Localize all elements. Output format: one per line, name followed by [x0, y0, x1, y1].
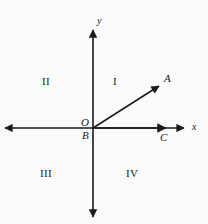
quadrant-label-ii: II [42, 76, 50, 87]
point-label-c: C [160, 132, 167, 143]
quadrant-label-iii: III [40, 168, 52, 179]
x-axis-label: x [192, 122, 196, 132]
ray-oa [93, 86, 159, 128]
quadrant-label-iv: IV [126, 168, 138, 179]
figure-canvas [0, 0, 208, 224]
quadrant-label-i: I [113, 76, 117, 87]
coordinate-plane-figure: y x O B A C I II III IV [0, 0, 208, 224]
y-axis-label: y [97, 16, 101, 26]
point-label-b: B [82, 130, 89, 141]
point-label-o: O [81, 117, 89, 128]
point-label-a: A [164, 73, 171, 84]
